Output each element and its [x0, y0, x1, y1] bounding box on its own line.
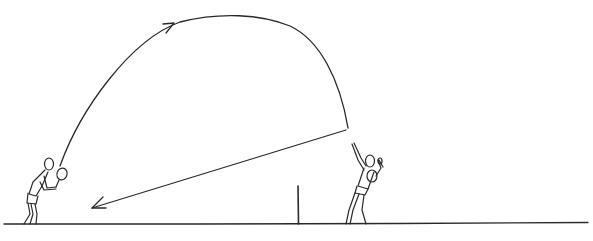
shot-diagram	[0, 0, 593, 241]
player-left-arm-2	[40, 182, 56, 190]
player-right-head	[366, 155, 375, 167]
player-right-leg-front	[362, 195, 366, 224]
ground-line	[4, 223, 588, 225]
player-left-leg-front	[35, 204, 37, 224]
racket-handle	[56, 180, 59, 187]
arc-arrowhead-icon	[163, 23, 174, 33]
player-left-head	[45, 158, 54, 170]
sketch-canvas	[0, 0, 593, 241]
racket-icon	[55, 167, 69, 182]
player-left	[24, 158, 69, 224]
player-right-leg-back-2	[350, 194, 359, 224]
player-left-leg-back	[24, 203, 30, 224]
return-trajectory-line	[92, 130, 346, 208]
player-right-arm-raised	[352, 144, 364, 170]
player-right-torso	[358, 168, 374, 189]
net-post	[298, 186, 299, 224]
player-right	[346, 143, 383, 224]
lob-trajectory-arc	[60, 16, 348, 166]
